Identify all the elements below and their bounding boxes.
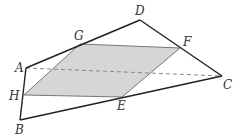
label-a: A: [14, 61, 24, 75]
geometry-diagram: A B C D E F G H: [0, 0, 244, 140]
label-e: E: [116, 99, 126, 113]
label-c: C: [223, 78, 232, 92]
label-d: D: [134, 4, 145, 18]
label-h: H: [8, 89, 20, 103]
section-efgh: [24, 44, 180, 97]
label-b: B: [14, 123, 24, 137]
label-g: G: [74, 29, 84, 43]
label-f: F: [182, 35, 192, 49]
